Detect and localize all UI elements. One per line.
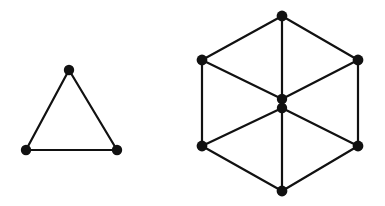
graph-vertex (277, 103, 287, 113)
graph-vertex (353, 55, 364, 66)
graph-vertex (197, 141, 208, 152)
figure-background (0, 0, 385, 206)
graph-vertex (197, 55, 208, 66)
graph-vertex (277, 94, 287, 104)
graph-figure-canvas (0, 0, 385, 206)
graph-vertex (21, 145, 31, 155)
graph-vertex (277, 11, 288, 22)
graph-vertex (112, 145, 122, 155)
graph-vertex (64, 65, 74, 75)
graph-vertex (353, 141, 364, 152)
graph-vertex (277, 186, 288, 197)
